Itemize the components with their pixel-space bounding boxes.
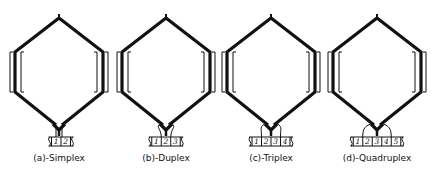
commutator-segment-label: 2 <box>163 137 169 146</box>
commutator-segment-label: 2 <box>263 137 269 146</box>
pole-bracket-icon <box>201 52 204 92</box>
panel-caption: (b)-Duplex <box>142 153 190 163</box>
commutator-segment-label: 1 <box>154 137 159 146</box>
panel-b: 123(b)-Duplex <box>117 14 215 163</box>
commutator-segment-label: 5 <box>394 137 399 146</box>
commutator-segment-label: 4 <box>383 137 389 146</box>
commutator-segment-label: 2 <box>364 137 370 146</box>
panel-d: 12345(d)-Quadruplex <box>328 14 426 163</box>
pole-bracket-icon <box>412 52 415 92</box>
panel-a: 12(a)-Simplex <box>10 14 108 163</box>
pole-bracket-icon <box>128 52 131 92</box>
winding-diagrams: 12(a)-Simplex123(b)-Duplex1234(c)-Triple… <box>0 0 437 177</box>
panel-caption: (c)-Triplex <box>249 153 293 163</box>
coil-hexagon-path <box>122 18 210 125</box>
commutator-segment-label: 2 <box>62 137 68 146</box>
pole-bracket-icon <box>94 52 97 92</box>
pole-bracket-icon <box>105 52 108 92</box>
commutator-segment-label: 4 <box>282 137 288 146</box>
commutator: 12345 <box>350 137 404 146</box>
pole-bracket-icon <box>328 52 331 92</box>
commutator-segment-label: 3 <box>273 137 278 146</box>
coil-hexagon-path <box>333 18 421 125</box>
pole-bracket-icon <box>233 52 236 92</box>
pole-bracket-icon <box>317 52 320 92</box>
commutator-segment-label: 1 <box>54 137 59 146</box>
pole-bracket-icon <box>21 52 24 92</box>
pole-bracket-icon <box>212 52 215 92</box>
coil-hexagon-path <box>227 18 315 125</box>
pole-bracket-icon <box>222 52 225 92</box>
commutator-segment-label: 3 <box>173 137 178 146</box>
commutator: 123 <box>149 137 184 146</box>
panel-caption: (d)-Quadruplex <box>343 153 412 163</box>
commutator: 1234 <box>249 137 293 146</box>
commutator-segment-label: 3 <box>375 137 380 146</box>
coil-hexagon-path <box>15 18 103 125</box>
pole-bracket-icon <box>423 52 426 92</box>
pole-bracket-icon <box>117 52 120 92</box>
pole-bracket-icon <box>306 52 309 92</box>
pole-bracket-icon <box>10 52 13 92</box>
panel-caption: (a)-Simplex <box>33 153 85 163</box>
commutator: 12 <box>49 137 74 146</box>
pole-bracket-icon <box>339 52 342 92</box>
commutator-segment-label: 1 <box>254 137 259 146</box>
commutator-segment-label: 1 <box>356 137 361 146</box>
panel-c: 1234(c)-Triplex <box>222 14 320 163</box>
